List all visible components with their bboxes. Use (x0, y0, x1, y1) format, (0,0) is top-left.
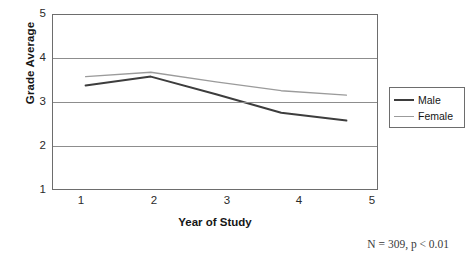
x-tick-label-3: 3 (212, 194, 242, 206)
legend-item-female: Female (390, 108, 464, 124)
y-tick-label-3: 3 (12, 95, 46, 107)
legend-label-male: Male (418, 94, 441, 106)
x-axis-title: Year of Study (52, 216, 378, 228)
legend-item-male: Male (390, 92, 464, 108)
x-tick-label-4: 4 (284, 194, 314, 206)
chart-footnote: N = 309, p < 0.01 (0, 238, 449, 250)
x-tick-label-1: 1 (66, 194, 96, 206)
chart-legend: Male Female (389, 87, 465, 128)
legend-label-female: Female (418, 110, 453, 122)
y-tick-label-2: 2 (12, 139, 46, 151)
y-tick-label-5: 5 (12, 7, 46, 19)
y-tick-label-4: 4 (12, 51, 46, 63)
legend-swatch-female (394, 116, 414, 117)
legend-swatch-male (394, 99, 414, 101)
series-line-male (86, 77, 347, 121)
y-tick-label-1: 1 (12, 183, 46, 195)
series-plot (53, 15, 379, 191)
gridline-3 (53, 102, 377, 103)
plot-area (52, 14, 378, 190)
x-axis-tick-labels: 1 2 3 4 5 (52, 194, 378, 214)
series-line-female (86, 72, 347, 95)
gridline-2 (53, 146, 377, 147)
gridline-4 (53, 58, 377, 59)
x-tick-label-2: 2 (139, 194, 169, 206)
y-axis-tick-labels: 5 4 3 2 1 (12, 0, 46, 263)
x-tick-label-5: 5 (357, 194, 387, 206)
chart-figure: Grade Average 5 4 3 2 1 1 2 3 4 5 Year o… (0, 0, 474, 263)
